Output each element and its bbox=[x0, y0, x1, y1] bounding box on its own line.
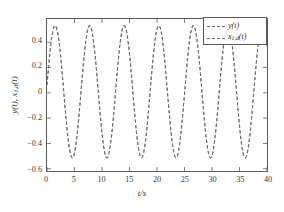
legend-label-x1d-subscript: 1,d bbox=[232, 36, 239, 42]
legend-entry-y: y(t) bbox=[207, 20, 263, 32]
x-tick-label-6: 30 bbox=[208, 176, 216, 184]
series-line-x1d bbox=[47, 26, 267, 158]
y-axis-label-tail: (t) bbox=[9, 76, 19, 85]
series-line-y bbox=[47, 26, 267, 158]
y-tick-label-4: −0.4 bbox=[14, 140, 42, 148]
caption-remnant bbox=[0, 202, 284, 212]
y-tick-label-1: 0.2 bbox=[14, 62, 42, 70]
legend-entry-x1d: x1,d(t) bbox=[207, 32, 263, 44]
x-tick-label-2: 10 bbox=[97, 176, 105, 184]
x-tick-label-0: 0 bbox=[44, 176, 48, 184]
legend: y(t) x1,d(t) bbox=[203, 17, 267, 45]
y-tick-label-2: 0 bbox=[14, 88, 42, 96]
legend-label-x1d-tail: (t) bbox=[239, 32, 247, 41]
legend-label-y: y(t) bbox=[228, 22, 239, 30]
legend-label-x1d: x1,d(t) bbox=[228, 33, 246, 42]
y-tick-label-5: −0.6 bbox=[14, 166, 42, 174]
x-axis-label: t/s bbox=[0, 188, 284, 198]
legend-swatch-dashed-y bbox=[207, 26, 225, 27]
x-tick-label-3: 15 bbox=[125, 176, 133, 184]
x-tick-label-1: 5 bbox=[72, 176, 76, 184]
y-tick-label-3: −0.2 bbox=[14, 114, 42, 122]
figure-sinusoid-tracking-plot: y(t), x1,d(t) 0.4 0.2 0 −0.2 −0.4 −0.6 bbox=[0, 0, 284, 212]
legend-swatch-dashed-x1d bbox=[207, 38, 225, 39]
x-tick-label-8: 40 bbox=[264, 176, 272, 184]
x-tick-label-7: 35 bbox=[236, 176, 244, 184]
x-tick-label-4: 20 bbox=[153, 176, 161, 184]
y-tick-label-0: 0.4 bbox=[14, 37, 42, 45]
x-tick-label-5: 25 bbox=[181, 176, 189, 184]
